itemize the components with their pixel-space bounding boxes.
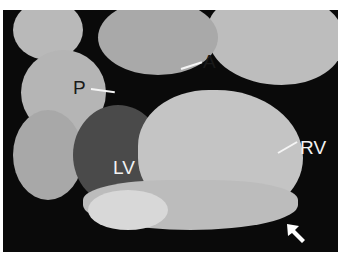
- label-rv: RV: [300, 138, 326, 157]
- label-a: A: [203, 52, 216, 71]
- label-p: P: [73, 78, 86, 97]
- specimen-photo: P A RV LV: [3, 10, 338, 252]
- arrow-icon: [285, 222, 309, 246]
- tissue-septum: [88, 190, 168, 230]
- label-lv: LV: [113, 158, 135, 177]
- tissue-top-center: [98, 10, 218, 75]
- tissue-top-right: [208, 10, 338, 85]
